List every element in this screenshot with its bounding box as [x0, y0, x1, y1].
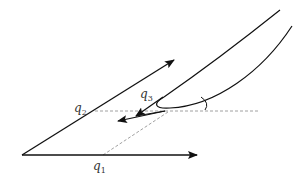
q3-label: q3	[140, 87, 153, 103]
q2-label: q2	[74, 101, 87, 117]
angle-arc	[201, 97, 207, 110]
q2-vector-arrow	[22, 60, 174, 155]
diagram-canvas: q2 q3 q1	[0, 0, 307, 180]
finger-tip-and-lower-edge	[157, 26, 292, 108]
q1-label: q1	[93, 159, 106, 175]
finger-upper-edge	[164, 10, 280, 97]
dashed-diagonal-line	[103, 112, 168, 155]
